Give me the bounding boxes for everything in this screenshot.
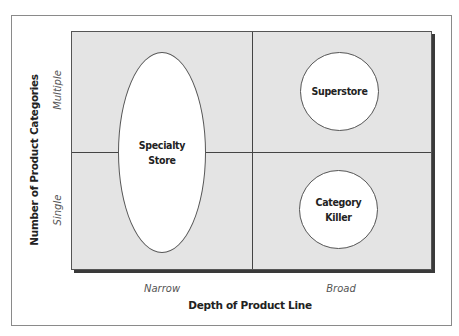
x-axis-title: Depth of Product Line (188, 299, 312, 311)
specialty-store-ellipse: Specialty Store (118, 52, 206, 253)
specialty-store-label: Specialty Store (139, 138, 185, 168)
x-tick-narrow: Narrow (144, 283, 180, 294)
category-killer-circle: Category Killer (299, 170, 378, 249)
vertical-divider (252, 32, 253, 269)
quadrant-grid: Specialty Store Superstore Category Kill… (71, 31, 432, 270)
x-tick-broad: Broad (326, 283, 356, 294)
y-tick-single: Single (52, 195, 63, 226)
superstore-circle: Superstore (300, 52, 379, 131)
y-tick-multiple: Multiple (52, 70, 63, 110)
superstore-label: Superstore (311, 84, 367, 99)
y-axis-title: Number of Product Categories (28, 74, 40, 246)
category-killer-label: Category Killer (316, 195, 362, 225)
